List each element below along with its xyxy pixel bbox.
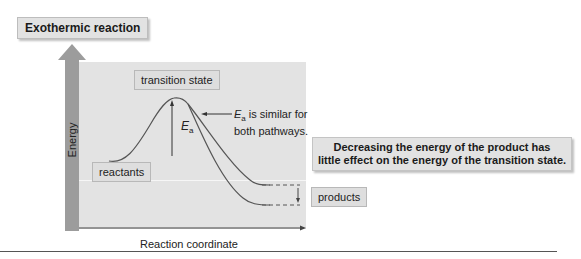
note-line1: Decreasing the energy of the product has: [313, 141, 571, 154]
transition-state-label: transition state: [134, 70, 220, 90]
activation-energy-label: Ea: [181, 119, 193, 135]
ea-annotation: Ea is similar for both pathways.: [234, 108, 308, 138]
divider: [0, 251, 557, 252]
products-label: products: [311, 187, 367, 207]
ea-note-text: is similar for: [246, 108, 308, 120]
ea-annotation-line2: both pathways.: [234, 125, 308, 138]
x-axis-label: Reaction coordinate: [140, 238, 238, 250]
ea-subscript: a: [189, 126, 193, 135]
explanation-note: Decreasing the energy of the product has…: [312, 137, 572, 171]
note-line2: little effect on the energy of the trans…: [313, 154, 571, 167]
ea-symbol: E: [181, 119, 189, 133]
ea-annotation-line1: Ea is similar for: [234, 108, 308, 125]
reactants-label: reactants: [92, 162, 151, 182]
